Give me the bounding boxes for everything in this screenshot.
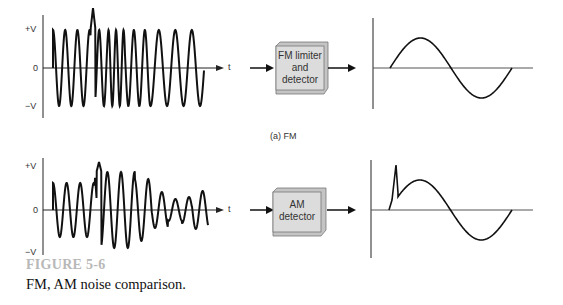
am-y-label-zero: 0 <box>33 205 38 215</box>
fm-input-arrowhead <box>266 64 274 72</box>
am-y-label-pos: +V <box>25 161 36 171</box>
fm-input-plot <box>43 8 224 118</box>
fm-y-label-pos: +V <box>25 24 36 34</box>
fm-block-line-1: FM limiter <box>276 50 324 62</box>
fm-y-label-neg: −V <box>25 101 36 111</box>
fm-output-plot <box>373 18 533 109</box>
fm-block-line-3: detector <box>276 74 324 86</box>
figure-number: FIGURE 5-6 <box>26 257 106 273</box>
fm-block-label: FM limiter and detector <box>276 50 324 86</box>
am-output-plot <box>371 160 533 258</box>
fm-block-line-2: and <box>276 62 324 74</box>
am-input-plot <box>43 158 224 255</box>
fm-x-axis-arrowhead <box>216 65 224 71</box>
fm-y-label-zero: 0 <box>33 63 38 73</box>
am-output-arrowhead <box>348 206 356 214</box>
fm-panel-caption: (a) FM <box>270 131 297 141</box>
am-noisy-waveform <box>53 162 208 248</box>
am-x-axis-arrowhead <box>216 207 224 213</box>
fm-noisy-waveform <box>53 8 204 106</box>
am-block-line-1: AM <box>273 199 321 211</box>
am-block-line-2: detector <box>273 211 321 223</box>
am-y-label-neg: −V <box>25 247 36 257</box>
fm-output-arrowhead <box>348 64 356 72</box>
am-recovered-sine-with-spike <box>389 165 512 240</box>
am-x-label: t <box>228 204 231 214</box>
figure-caption: FM, AM noise comparison. <box>26 276 186 293</box>
fm-x-label: t <box>228 62 231 72</box>
am-block-label: AM detector <box>273 199 321 223</box>
